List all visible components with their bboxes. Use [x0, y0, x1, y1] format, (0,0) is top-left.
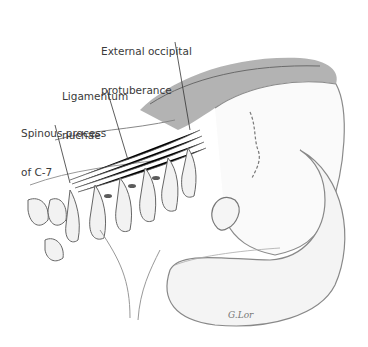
- label-line-1: External occipital: [101, 45, 192, 58]
- artist-signature: G.Lor: [228, 310, 253, 320]
- anatomical-illustration: External occipital protuberance Ligament…: [0, 0, 368, 347]
- label-spinous-process-c7: Spinous process of C-7: [21, 101, 106, 205]
- label-line-2: of C-7: [21, 166, 106, 179]
- label-line-1: Spinous process: [21, 127, 106, 140]
